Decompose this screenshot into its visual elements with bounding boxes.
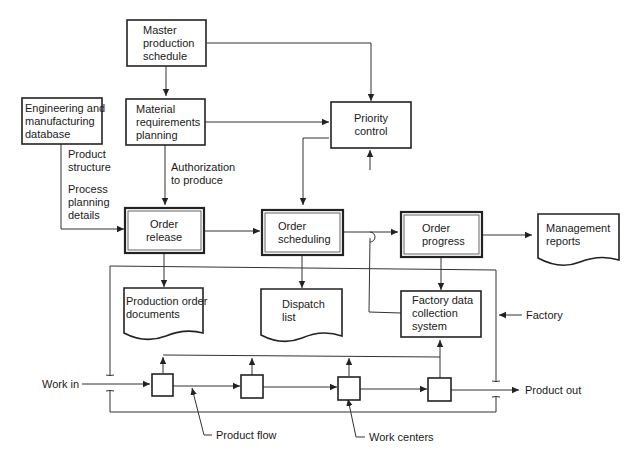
work-center-2 [241,375,263,398]
svg-text:Engineering and: Engineering and [25,102,105,114]
work-center-4 [428,378,451,401]
node-factory-data-collection-system: Factory data collection system [401,291,481,337]
svg-text:Factory data: Factory data [412,294,474,306]
svg-text:documents: documents [126,308,180,320]
node-order-release: Order release [125,208,204,253]
svg-text:planning: planning [68,196,110,208]
label-factory: Factory [526,309,563,321]
svg-text:list: list [282,311,295,323]
svg-text:scheduling: scheduling [278,233,331,245]
svg-text:collection: collection [412,307,458,319]
svg-text:schedule: schedule [143,50,187,62]
label-product-out: Product out [525,384,581,396]
svg-text:production: production [143,37,194,49]
svg-text:Order: Order [150,218,178,230]
svg-text:details: details [68,209,100,221]
svg-text:control: control [354,125,387,137]
label-product-structure: Product [68,148,106,160]
work-center-1 [152,374,173,396]
svg-text:manufacturing: manufacturing [25,115,95,127]
svg-text:reports: reports [546,235,581,247]
svg-text:planning: planning [136,129,178,141]
svg-text:Priority: Priority [354,112,389,124]
label-product-flow: Product flow [216,429,277,441]
work-center-3 [338,377,360,400]
node-order-scheduling: Order scheduling [262,210,343,255]
svg-text:Production order: Production order [126,295,208,307]
label-work-centers: Work centers [369,431,434,443]
svg-text:Material: Material [136,103,175,115]
label-process-planning: Process [68,183,108,195]
node-engineering-manufacturing-database: Engineering and manufacturing database [22,98,105,144]
svg-text:Order: Order [422,222,450,234]
node-priority-control: Priority control [331,102,411,148]
node-material-requirements-planning: Material requirements planning [126,99,205,145]
svg-text:release: release [146,231,182,243]
node-management-reports: Management reports [538,214,619,265]
svg-text:structure: structure [68,161,111,173]
svg-text:system: system [412,320,447,332]
svg-text:database: database [25,128,70,140]
node-production-order-documents: Production order documents [124,288,208,339]
svg-text:Dispatch: Dispatch [282,298,325,310]
svg-text:Master: Master [143,24,177,36]
label-authorization: Authorization [171,161,235,173]
shop-floor-control-diagram: Master production schedule Material requ… [0,0,640,464]
svg-text:requirements: requirements [136,116,201,128]
node-master-production-schedule: Master production schedule [127,20,206,66]
svg-text:progress: progress [422,235,465,247]
svg-text:to produce: to produce [171,174,223,186]
label-work-in: Work in [42,378,79,390]
svg-text:Order: Order [278,220,306,232]
svg-text:Management: Management [546,222,610,234]
node-order-progress: Order progress [401,212,482,257]
node-dispatch-list: Dispatch list [261,289,342,341]
